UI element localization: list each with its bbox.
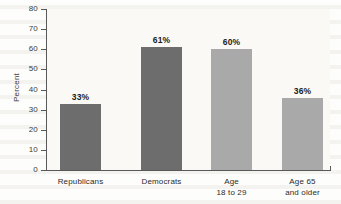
y-axis-tick-label: 0	[18, 166, 38, 174]
category-label-line: Republicans	[36, 176, 125, 187]
x-axis-line	[46, 170, 331, 171]
bar-value-label: 33%	[46, 92, 115, 102]
bar-chart-figure: Percent 80706050403020100 33%Republicans…	[0, 0, 341, 204]
y-axis-tick-label: 80	[18, 5, 38, 13]
x-axis-end-tick	[330, 166, 331, 171]
bar-rect[interactable]	[60, 104, 101, 170]
y-axis-tick	[41, 90, 46, 91]
y-axis-tick	[41, 150, 46, 151]
y-axis-tick	[41, 130, 46, 131]
y-axis-tick	[41, 9, 46, 10]
bar-rect[interactable]	[282, 98, 323, 170]
bar-rect[interactable]	[141, 47, 182, 170]
bar-rect[interactable]	[211, 49, 252, 170]
category-label-line: Age 65	[258, 176, 341, 187]
x-axis-category-label: Age 65and older	[258, 176, 341, 198]
x-axis-category-label: Republicans	[36, 176, 125, 187]
y-axis-tick	[41, 29, 46, 30]
y-axis-tick-label: 50	[18, 65, 38, 73]
y-axis-tick-label: 60	[18, 45, 38, 53]
bar-2[interactable]: 61%Democrats	[141, 47, 182, 170]
bar-4[interactable]: 36%Age 65and older	[282, 98, 323, 170]
y-axis-tick-label: 20	[18, 126, 38, 134]
y-axis-tick-label: 40	[18, 86, 38, 94]
bar-value-label: 60%	[197, 37, 266, 47]
category-label-line: and older	[258, 187, 341, 198]
y-axis-tick	[41, 69, 46, 70]
bar-value-label: 61%	[127, 35, 196, 45]
y-axis-line	[46, 9, 47, 171]
y-axis-tick	[41, 110, 46, 111]
y-axis-tick-label: 70	[18, 25, 38, 33]
bar-3[interactable]: 60%Age18 to 29	[211, 49, 252, 170]
bar-1[interactable]: 33%Republicans	[60, 104, 101, 170]
y-axis-tick	[41, 49, 46, 50]
y-axis-tick-label: 10	[18, 146, 38, 154]
y-axis-tick	[41, 170, 46, 171]
y-axis-tick-label: 30	[18, 106, 38, 114]
bar-value-label: 36%	[268, 86, 337, 96]
